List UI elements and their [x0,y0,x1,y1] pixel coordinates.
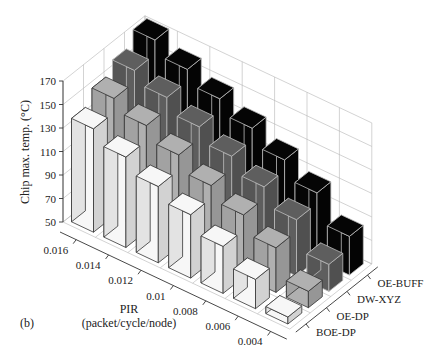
pir-tick [170,286,173,290]
series-tick-label: BOE-DP [316,326,356,338]
series-tick-label: DW-XYZ [357,293,401,305]
z-tick-label: 70 [45,193,57,205]
bar-boe-dp-0.006 [234,258,270,309]
bar-boe-dp-0.016 [72,107,108,232]
series-tick [347,291,350,295]
pir-tick-label: 0.012 [108,274,133,286]
pir-tick [138,270,141,274]
series-tick-label: OE-BUFF [378,277,424,289]
bar-boe-dp-0.01 [169,193,205,278]
z-axis-title: Chip max. temp. (°C) [18,100,32,204]
bar-chart-3d: 5070901101301501700.0160.0140.0120.010.0… [0,0,434,353]
pir-tick [203,301,206,305]
pir-tick [73,240,76,244]
z-tick-label: 50 [45,216,57,228]
pir-tick-label: 0.01 [146,290,165,302]
x-axis-title-line2: (packet/cycle/node) [82,316,177,330]
series-tick [327,308,330,312]
pir-tick-label: 0.008 [173,305,198,317]
bar-boe-dp-0.014 [104,136,140,248]
z-tick-label: 150 [40,99,57,111]
pir-tick-label: 0.014 [76,259,101,271]
series-tick [368,275,371,279]
z-tick-label: 110 [40,146,57,158]
pir-tick-label: 0.004 [238,335,263,347]
pir-tick-label: 0.006 [205,320,230,332]
z-tick-label: 90 [45,169,57,181]
pir-tick-label: 0.016 [43,244,68,256]
bar-side-face [72,107,86,221]
pir-tick [106,255,109,259]
series-tick-label: OE-DP [337,310,369,322]
pir-tick [235,316,238,320]
pir-tick [268,331,271,335]
x-axis-title-line1: PIR [120,302,139,316]
panel-label: (b) [20,316,34,330]
z-tick-label: 130 [40,122,57,134]
z-tick-label: 170 [40,75,57,87]
series-tick [306,324,309,328]
bar-boe-dp-0.008 [201,225,237,293]
bar-boe-dp-0.012 [136,165,172,263]
